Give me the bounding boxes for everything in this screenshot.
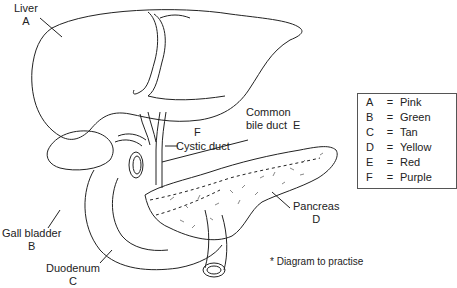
key-row: D=Yellow — [366, 139, 431, 155]
key-row: F=Purple — [366, 169, 432, 185]
label-cystic-duct-letter: F — [194, 126, 201, 139]
label-liver: Liver A — [14, 2, 38, 28]
key-row: E=Red — [366, 154, 420, 170]
label-gall-bladder: Gall bladder B — [2, 227, 61, 253]
duodenum-outline — [85, 170, 222, 270]
liver-fold — [133, 12, 157, 94]
practice-note: * Diagram to practise — [270, 255, 363, 268]
color-key: A=Pink B=Green C=Tan D=Yellow E=Red F=Pu… — [357, 93, 457, 189]
key-row: C=Tan — [366, 124, 418, 140]
key-row: A=Pink — [366, 94, 421, 110]
label-pancreas: Pancreas D — [293, 200, 339, 226]
label-common-bile-duct: Common bile duct E — [246, 106, 300, 132]
label-cystic-duct: Cystic duct — [176, 140, 230, 153]
key-row: B=Green — [366, 109, 431, 125]
label-duodenum: Duodenum C — [46, 262, 100, 288]
